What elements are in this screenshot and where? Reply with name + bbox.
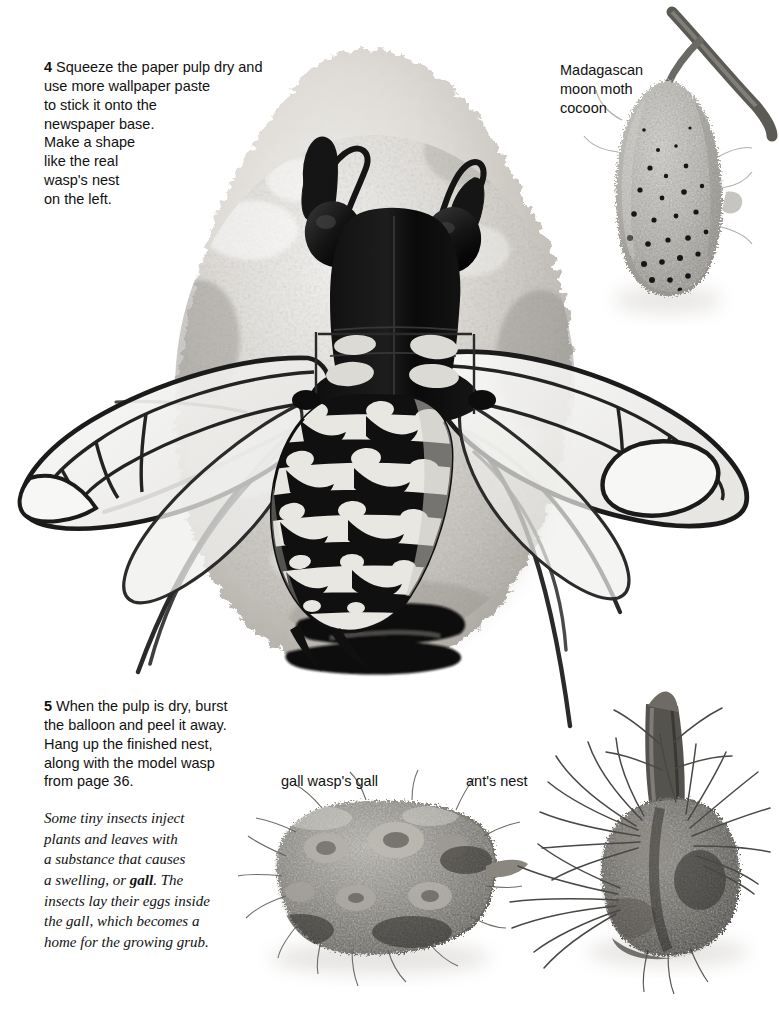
step-5-body: When the pulp is dry, burst the balloon … (44, 698, 228, 789)
gall-fact-paragraph: Some tiny insects inject plants and leav… (44, 808, 254, 953)
step-5-instruction: 5 When the pulp is dry, burst the balloo… (44, 697, 259, 791)
fact-line-4-post: . The (153, 872, 183, 888)
fact-line-2: plants and leaves with (44, 831, 178, 847)
caption-ants-nest: ant's nest (466, 772, 528, 791)
fact-line-4-pre: a swelling, or (44, 872, 130, 888)
caption-moon-moth-cocoon: Madagascan moon moth cocoon (560, 61, 690, 118)
fact-term-gall: gall (130, 872, 153, 888)
caption-gall-wasps-gall: gall wasp's gall (281, 772, 378, 791)
fact-line-5: insects lay their eggs inside (44, 893, 210, 909)
ants-nest-photo (510, 692, 770, 994)
step-4-body: Squeeze the paper pulp dry and use more … (44, 59, 263, 207)
step-4-number: 4 (44, 59, 52, 75)
fact-line-1: Some tiny insects inject (44, 810, 184, 826)
fact-line-6: the gall, which becomes a (44, 913, 199, 929)
fact-line-7: home for the growing grub. (44, 934, 209, 950)
fact-line-3: a substance that causes (44, 851, 185, 867)
step-4-instruction: 4 Squeeze the paper pulp dry and use mor… (44, 58, 294, 209)
moon-moth-cocoon-photo (584, 12, 772, 314)
step-5-number: 5 (44, 698, 52, 714)
gall-wasp-gall-photo (238, 770, 528, 986)
page-root: 4 Squeeze the paper pulp dry and use mor… (0, 0, 779, 1018)
